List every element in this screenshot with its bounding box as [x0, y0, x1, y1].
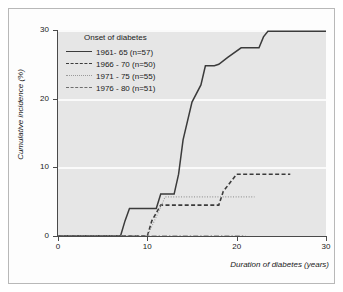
y-tick-0	[53, 236, 57, 237]
series-line	[58, 197, 255, 236]
x-tick-label-30: 30	[314, 242, 338, 251]
legend-item-label: 1966 - 70 (n=50)	[96, 60, 155, 69]
legend-item[interactable]: 1966 - 70 (n=50)	[66, 58, 196, 70]
x-tick-20	[237, 237, 238, 241]
legend-item[interactable]: 1961- 65 (n=57)	[66, 46, 196, 58]
legend-title: Onset of diabetes	[84, 33, 196, 42]
y-tick-30	[53, 30, 57, 31]
legend-item[interactable]: 1976 - 80 (n=51)	[66, 82, 196, 94]
y-tick-label-20: 20	[27, 94, 49, 103]
legend-swatch-dashdot-icon	[66, 84, 92, 92]
legend: Onset of diabetes 1961- 65 (n=57)1966 - …	[66, 33, 196, 94]
legend-swatch-dashed-icon	[66, 60, 92, 68]
legend-item[interactable]: 1971 - 75 (n=55)	[66, 70, 196, 82]
x-tick-0	[58, 237, 59, 241]
y-tick-20	[53, 99, 57, 100]
x-tick-10	[147, 237, 148, 241]
y-axis-line	[57, 30, 58, 237]
x-axis-line	[57, 236, 327, 237]
y-tick-label-10: 10	[27, 162, 49, 171]
y-tick-label-30: 30	[27, 25, 49, 34]
legend-item-label: 1971 - 75 (n=55)	[96, 72, 155, 81]
series-line	[58, 174, 290, 236]
legend-item-label: 1961- 65 (n=57)	[96, 48, 153, 57]
x-tick-label-20: 20	[225, 242, 249, 251]
y-tick-10	[53, 167, 57, 168]
y-tick-label-0: 0	[27, 231, 49, 240]
x-axis-title: Duration of diabetes (years)	[230, 260, 329, 269]
legend-item-label: 1976 - 80 (n=51)	[96, 84, 155, 93]
figure-container: 30 20 10 0 0 10 20 30 Cumulative inciden…	[0, 0, 343, 292]
legend-swatch-solid-icon	[66, 48, 92, 56]
legend-swatch-dotted-icon	[66, 72, 92, 80]
y-axis-title: Cumulative incidence (%)	[16, 55, 25, 175]
x-tick-30	[326, 237, 327, 241]
x-tick-label-10: 10	[135, 242, 159, 251]
x-tick-label-0: 0	[46, 242, 70, 251]
